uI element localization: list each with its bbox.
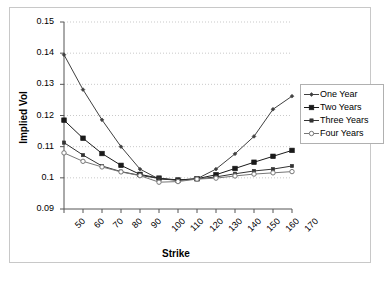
data-point-marker [271,154,276,159]
data-point-marker [81,136,86,141]
y-axis-tick-label: 0.14 [22,47,54,57]
data-point-marker [309,131,313,135]
y-axis-tick-label: 0.1 [22,172,54,182]
y-axis-tick-label: 0.13 [22,78,54,88]
legend-item-4[interactable]: Four Years [304,127,381,140]
data-point-marker [214,176,218,180]
legend-marker-icon [304,89,319,100]
data-point-marker [62,151,66,155]
data-point-marker [62,141,65,144]
data-point-marker [233,166,238,171]
data-point-marker [81,159,85,163]
series-2 [62,118,295,182]
legend-item-3[interactable]: Three Years [304,114,381,127]
data-point-marker [119,163,124,168]
data-point-marker [290,169,294,173]
series-4 [62,151,294,185]
data-point-marker [81,153,84,156]
legend-marker-icon [304,102,319,113]
chart-legend: One YearTwo YearsThree YearsFour Years [300,84,384,144]
chart-container: Implied Vol Strike 0.090.10.110.120.130.… [0,0,391,282]
data-point-marker [252,172,256,176]
data-point-marker [290,148,295,153]
legend-marker-icon [304,115,319,126]
legend-item-label: Four Years [319,128,364,139]
data-point-marker [233,174,237,178]
data-point-marker [119,170,123,174]
data-point-marker [252,160,257,165]
legend-item-2[interactable]: Two Years [304,101,381,114]
y-axis-tick-label: 0.11 [22,141,54,151]
data-point-marker [100,165,104,169]
y-axis-tick-label: 0.15 [22,16,54,26]
y-axis-tick-label: 0.12 [22,110,54,120]
data-point-marker [62,118,67,123]
data-point-marker [310,119,313,122]
data-point-marker [195,177,199,181]
legend-item-1[interactable]: One Year [304,88,381,101]
legend-item-label: One Year [319,89,358,100]
legend-item-label: Two Years [319,102,362,113]
data-point-marker [157,180,161,184]
x-axis-title: Strike [60,248,292,259]
data-point-marker [271,171,275,175]
data-point-marker [290,164,293,167]
y-axis-tick-label: 0.09 [22,203,54,213]
data-point-marker [100,151,105,156]
data-point-marker [310,93,314,97]
legend-item-label: Three Years [319,115,369,126]
data-point-marker [309,105,314,110]
legend-marker-icon [304,128,319,139]
data-point-marker [138,173,142,177]
data-point-marker [176,179,180,183]
